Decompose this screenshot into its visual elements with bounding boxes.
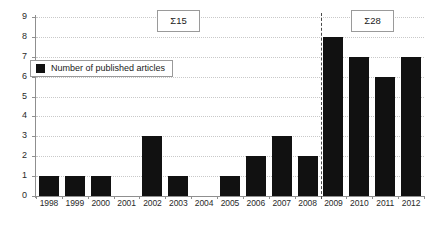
x-axis-tick-mark: [424, 196, 425, 199]
x-axis-tick-label: 2007: [269, 199, 295, 208]
x-axis-tick-mark: [36, 196, 37, 199]
x-axis-tick-label: 2006: [243, 199, 269, 208]
x-axis-tick-label: 1998: [36, 199, 62, 208]
bar-slot: [36, 17, 62, 196]
bar-slot: [321, 17, 347, 196]
y-axis-tick-label: 8: [0, 32, 27, 41]
chart-legend: Number of published articles: [30, 60, 173, 77]
x-axis-tick-label: 2009: [321, 199, 347, 208]
bar-slot: [165, 17, 191, 196]
y-axis-tick-label: 0: [0, 191, 27, 200]
bar: [246, 156, 266, 196]
x-axis-tick-label: 2011: [372, 199, 398, 208]
y-axis-tick-label: 6: [0, 72, 27, 81]
x-axis-tick-mark: [88, 196, 89, 199]
bar: [323, 37, 343, 196]
x-axis-tick-mark: [372, 196, 373, 199]
sum-annotation-left: Σ15: [157, 10, 199, 32]
bar: [142, 136, 162, 196]
bar-slot: [269, 17, 295, 196]
bar-slot: [243, 17, 269, 196]
x-axis-line: [35, 196, 425, 197]
x-axis-tick-mark: [165, 196, 166, 199]
y-axis-tick-label: 5: [0, 92, 27, 101]
bar-slot: [62, 17, 88, 196]
x-axis-tick-mark: [269, 196, 270, 199]
x-axis-tick-mark: [139, 196, 140, 199]
y-axis-tick-label: 9: [0, 12, 27, 21]
bar: [272, 136, 292, 196]
plot-area: [36, 17, 424, 196]
bar-slot: [372, 17, 398, 196]
bar: [401, 57, 421, 196]
x-axis-tick-label: 2008: [295, 199, 321, 208]
bar-slot: [295, 17, 321, 196]
bar-slot: [114, 17, 140, 196]
bar: [39, 176, 59, 196]
x-axis-tick-label: 2000: [88, 199, 114, 208]
bar: [349, 57, 369, 196]
bar-slot: [191, 17, 217, 196]
sum-annotation-right: Σ28: [351, 10, 393, 32]
y-axis-tick-label: 2: [0, 151, 27, 160]
y-axis-tick-label: 4: [0, 111, 27, 120]
x-axis-tick-label: 2002: [139, 199, 165, 208]
x-axis-tick-label: 2010: [346, 199, 372, 208]
bar-slot: [139, 17, 165, 196]
bar-slot: [217, 17, 243, 196]
x-axis-tick-mark: [243, 196, 244, 199]
x-axis-tick-mark: [114, 196, 115, 199]
x-axis-tick-label: 2005: [217, 199, 243, 208]
bar: [298, 156, 318, 196]
x-axis-tick-label: 1999: [62, 199, 88, 208]
x-axis-tick-label: 2012: [398, 199, 424, 208]
y-axis-tick-label: 1: [0, 171, 27, 180]
bar: [375, 77, 395, 196]
bar-slot: [88, 17, 114, 196]
bar-slot: [398, 17, 424, 196]
bar: [65, 176, 85, 196]
x-axis-tick-label: 2004: [191, 199, 217, 208]
legend-label: Number of published articles: [51, 64, 165, 73]
bar: [220, 176, 240, 196]
x-axis-tick-mark: [191, 196, 192, 199]
y-axis-tick-label: 7: [0, 52, 27, 61]
bar: [91, 176, 111, 196]
x-axis-tick-label: 2001: [114, 199, 140, 208]
y-axis-tick-label: 3: [0, 131, 27, 140]
x-axis-tick-mark: [217, 196, 218, 199]
x-axis-tick-mark: [398, 196, 399, 199]
x-axis-tick-label: 2003: [165, 199, 191, 208]
x-axis-tick-mark: [62, 196, 63, 199]
bar: [168, 176, 188, 196]
period-divider-line: [321, 13, 322, 199]
x-axis-tick-mark: [346, 196, 347, 199]
bar-slot: [346, 17, 372, 196]
x-axis-tick-mark: [295, 196, 296, 199]
bar-chart-figure: 0123456789 19981999200020012002200320042…: [0, 0, 433, 230]
legend-swatch-icon: [36, 64, 45, 73]
